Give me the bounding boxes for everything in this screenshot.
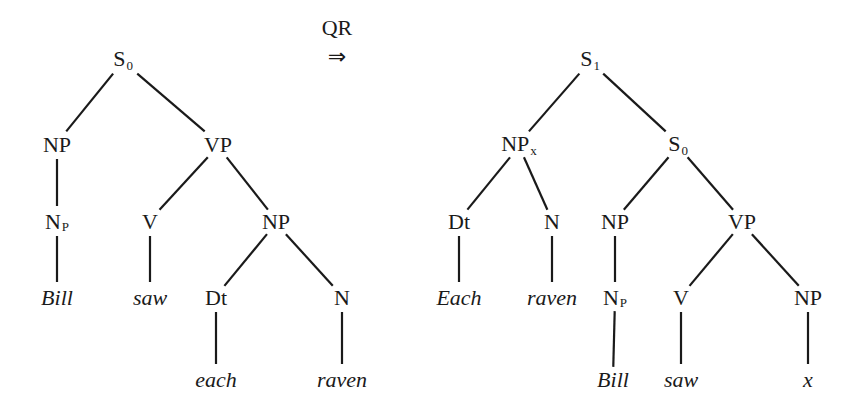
node-label: V <box>673 285 689 310</box>
right-edge-S0-NP <box>624 157 669 209</box>
node-label: NP <box>794 285 822 310</box>
left-node-each: each <box>195 369 237 391</box>
node-label: saw <box>133 285 167 310</box>
node-label: raven <box>317 367 367 392</box>
right-node-raven: raven <box>527 287 577 309</box>
node-subscript: P <box>62 219 69 234</box>
node-subscript: 0 <box>126 58 133 73</box>
right-edge-Np-Bill <box>613 311 614 367</box>
right-edge-S1-NPx <box>529 74 579 132</box>
right-node-s0: S0 <box>668 133 688 157</box>
right-edge-VP-V <box>690 234 733 286</box>
node-label: N <box>334 285 350 310</box>
node-label: saw <box>664 367 698 392</box>
left-node-np: NP <box>43 134 71 156</box>
node-label: S <box>668 131 680 156</box>
node-subscript: P <box>620 295 627 310</box>
right-edge-S1-S0 <box>603 74 665 132</box>
right-node-n: N <box>544 211 560 233</box>
node-label: raven <box>527 285 577 310</box>
left-node-raven: raven <box>317 369 367 391</box>
node-label: NP <box>262 209 290 234</box>
right-node-each: Each <box>436 287 481 309</box>
right-edge-NPx-Dt <box>467 157 510 209</box>
right-node-npx: NPx <box>501 133 537 157</box>
node-label: S <box>113 46 125 71</box>
node-label: Dt <box>205 285 227 310</box>
left-node-vp: VP <box>204 134 232 156</box>
left-node-np: NP <box>45 211 69 233</box>
right-node-dt: Dt <box>448 211 470 233</box>
left-node-dt: Dt <box>205 287 227 309</box>
node-label: S <box>580 46 592 71</box>
left-edge-NP2-Dt <box>224 234 267 286</box>
node-label: Bill <box>41 285 73 310</box>
node-label: x <box>803 367 813 392</box>
left-edge-S0-NP <box>66 74 113 132</box>
node-subscript: 0 <box>681 143 688 158</box>
left-edge-VP-V <box>160 157 208 209</box>
left-node-np2: NP <box>262 211 290 233</box>
node-label: N <box>45 209 61 234</box>
right-node-bill: Bill <box>597 369 629 391</box>
node-label: NP <box>43 132 71 157</box>
right-edge-VP-NP2 <box>752 234 799 286</box>
left-node-n: N <box>334 287 350 309</box>
left-node-saw: saw <box>133 287 167 309</box>
node-label: VP <box>204 132 232 157</box>
node-label: Dt <box>448 209 470 234</box>
node-label: NP <box>501 131 529 156</box>
right-node-x: x <box>803 369 813 391</box>
right-node-np: NP <box>601 211 629 233</box>
right-edge-NPx-N <box>524 157 547 209</box>
qr-tree-diagram: QR ⇒ S0NPVPNPVNPBillsawDtNeachraven S1NP… <box>0 0 855 417</box>
right-node-np2: NP <box>794 287 822 309</box>
left-edge-S0-VP <box>137 74 204 132</box>
node-label: Each <box>436 285 481 310</box>
right-node-np: NP <box>603 287 627 309</box>
node-label: N <box>544 209 560 234</box>
right-node-s1: S1 <box>580 48 600 72</box>
right-edge-S0-VP <box>688 157 733 209</box>
node-subscript: x <box>530 143 537 158</box>
left-edge-NP2-N <box>286 234 333 286</box>
node-label: each <box>195 367 237 392</box>
right-node-saw: saw <box>664 369 698 391</box>
left-node-bill: Bill <box>41 287 73 309</box>
node-label: VP <box>728 209 756 234</box>
node-subscript: 1 <box>593 58 600 73</box>
right-node-vp: VP <box>728 211 756 233</box>
transformation-label: QR <box>322 15 353 41</box>
left-edge-VP-NP2 <box>227 157 268 209</box>
node-label: N <box>603 285 619 310</box>
node-label: NP <box>601 209 629 234</box>
left-node-s0: S0 <box>113 48 133 72</box>
node-label: Bill <box>597 367 629 392</box>
double-arrow-icon: ⇒ <box>328 44 346 69</box>
right-node-v: V <box>673 287 689 309</box>
node-label: V <box>142 209 158 234</box>
left-node-v: V <box>142 211 158 233</box>
